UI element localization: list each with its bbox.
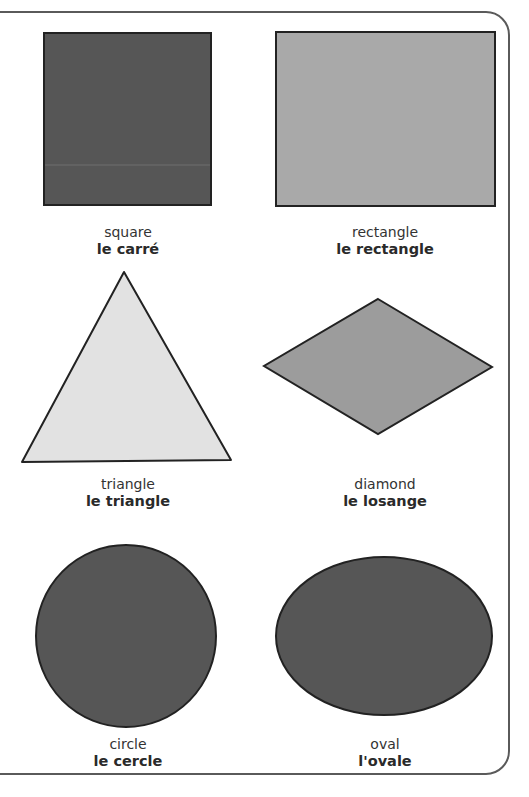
english-word: circle	[18, 736, 238, 753]
english-word: triangle	[18, 476, 238, 493]
circle-shape	[36, 545, 216, 727]
french-word: l'ovale	[275, 753, 495, 770]
rectangle-shape	[276, 32, 495, 206]
english-word: diamond	[275, 476, 495, 493]
diamond-shape	[264, 299, 492, 434]
square-label: square le carré	[18, 224, 238, 258]
square-shape	[44, 33, 211, 205]
oval-label: oval l'ovale	[275, 736, 495, 770]
french-word: le triangle	[18, 493, 238, 510]
triangle-label: triangle le triangle	[18, 476, 238, 510]
rectangle-label: rectangle le rectangle	[275, 224, 495, 258]
french-word: le rectangle	[275, 241, 495, 258]
english-word: oval	[275, 736, 495, 753]
circle-label: circle le cercle	[18, 736, 238, 770]
english-word: square	[18, 224, 238, 241]
diamond-label: diamond le losange	[275, 476, 495, 510]
french-word: le carré	[18, 241, 238, 258]
oval-shape	[276, 557, 492, 715]
french-word: le losange	[275, 493, 495, 510]
shapes-canvas	[0, 0, 529, 797]
french-word: le cercle	[18, 753, 238, 770]
english-word: rectangle	[275, 224, 495, 241]
triangle-shape	[22, 272, 231, 462]
